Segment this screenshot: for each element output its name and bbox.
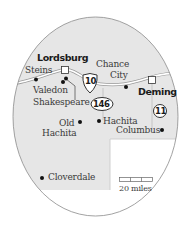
- lordsburg-marker-icon: [62, 67, 69, 74]
- chance-city-label-line2: City: [110, 71, 128, 80]
- chance-city-dot-icon: [124, 85, 128, 89]
- deming-label: Deming: [138, 87, 177, 96]
- shakespeare-dot-icon: [61, 80, 65, 84]
- columbus-dot-icon: [160, 128, 164, 132]
- columbus-label: Columbus: [116, 126, 160, 135]
- cloverdale-dot-icon: [40, 176, 44, 180]
- interstate-10-number: 10: [85, 77, 96, 86]
- map-container: Lordsburg Deming Steins Valedon Shakespe…: [0, 0, 190, 229]
- steins-label: Steins: [25, 66, 52, 75]
- route-146-number: 146: [93, 100, 110, 109]
- deming-marker-icon: [149, 77, 156, 84]
- valedon-label: Valedon: [33, 86, 68, 95]
- old-hachita-label-line2: Hachita: [42, 129, 77, 138]
- route-11-number: 11: [155, 107, 166, 116]
- scale-label: 20 miles: [119, 184, 152, 193]
- scale-bar-icon: [120, 178, 153, 182]
- chance-city-label-line1: Chance: [96, 60, 129, 69]
- steins-dot-icon: [34, 78, 38, 82]
- shakespeare-label: Shakespeare: [33, 98, 90, 107]
- old-hachita-dot-icon: [78, 120, 82, 124]
- hachita-dot-icon: [97, 119, 101, 123]
- cloverdale-label: Cloverdale: [48, 173, 95, 182]
- valedon-dot-icon: [64, 77, 68, 81]
- old-hachita-label-line1: Old: [59, 119, 74, 128]
- lordsburg-label: Lordsburg: [37, 53, 88, 62]
